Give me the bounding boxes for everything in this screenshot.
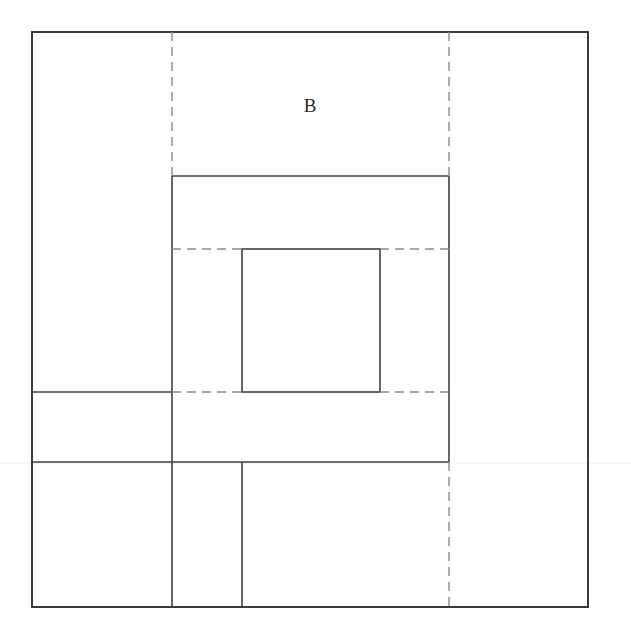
inner-square [242, 249, 380, 392]
dashed-segments-group [172, 32, 449, 607]
region-label-B: B [304, 95, 317, 116]
outer-square [32, 32, 588, 607]
geometry-figure: B [0, 0, 631, 638]
figure-canvas: B [0, 0, 631, 638]
